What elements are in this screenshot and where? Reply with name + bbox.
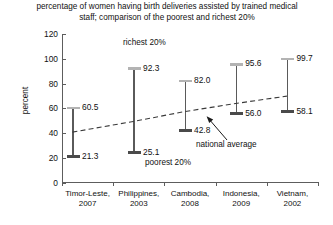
value-label-poorest: 58.1	[296, 107, 312, 115]
x-axis-label-line1: Timor-Leste,	[60, 189, 116, 199]
y-tick-label-20: 20	[26, 154, 58, 162]
value-label-richest: 99.7	[296, 54, 312, 62]
y-tick-label-40-wrap: 40	[26, 129, 58, 138]
value-label-richest: 92.3	[143, 64, 159, 72]
annotation-poorest-20: poorest 20%	[145, 158, 191, 167]
x-tick-2	[164, 182, 165, 186]
bar-line	[236, 64, 237, 113]
chart-title: percentage of women having birth deliver…	[36, 2, 298, 23]
y-tick-label-80-wrap: 80	[26, 80, 58, 89]
x-axis-label-timor-leste: Timor-Leste, 2007	[60, 189, 116, 209]
y-tick-label-80: 80	[26, 80, 58, 88]
y-tick-label-60-wrap: 60	[26, 104, 58, 113]
x-axis-label-line1: Cambodia,	[162, 189, 218, 199]
cap-poorest	[281, 110, 294, 113]
cap-poorest	[230, 112, 243, 115]
y-tick-label-100-wrap: 100	[26, 55, 58, 64]
value-label-poorest: 25.1	[143, 148, 159, 156]
y-tick-label-120: 120	[26, 30, 58, 38]
x-axis-label-philippines: Philippines, 2003	[111, 189, 167, 209]
x-axis-label-line1: Indonesia,	[213, 189, 269, 199]
x-tick-5	[318, 182, 319, 186]
y-tick-40	[62, 133, 66, 134]
cap-richest	[128, 67, 141, 70]
x-axis-label-line1: Philippines,	[111, 189, 167, 199]
bar-line	[185, 81, 186, 130]
x-axis-label-line2: 2009	[213, 199, 269, 209]
bar-line	[133, 68, 134, 151]
x-axis-label-cambodia: Cambodia, 2008	[162, 189, 218, 209]
y-tick-80	[62, 84, 66, 85]
y-tick-120	[62, 34, 66, 35]
x-axis-line	[62, 182, 319, 183]
cap-richest	[67, 107, 80, 110]
x-axis-label-line2: 2008	[162, 199, 218, 209]
cap-poorest	[67, 155, 80, 158]
value-label-richest: 60.5	[82, 103, 98, 111]
national-average-arrow-shaft	[209, 119, 228, 141]
y-tick-label-100: 100	[26, 55, 58, 63]
cap-richest	[230, 63, 243, 66]
y-tick-60	[62, 108, 66, 109]
cap-poorest	[128, 151, 141, 154]
x-axis-label-line2: 2003	[111, 199, 167, 209]
x-tick-0	[62, 182, 63, 186]
x-axis-label-line1: Vietnam,	[264, 189, 320, 199]
cap-richest	[281, 58, 294, 61]
national-average-arrow-head	[207, 116, 214, 123]
annotation-richest-20: richest 20%	[123, 38, 166, 47]
x-axis-label-vietnam: Vietnam, 2002	[264, 189, 320, 209]
x-axis-label-indonesia: Indonesia, 2009	[213, 189, 269, 209]
y-tick-label-0-wrap: 0	[26, 179, 58, 188]
y-tick-label-40: 40	[26, 129, 58, 137]
y-tick-label-0: 0	[26, 179, 58, 187]
x-tick-1	[113, 182, 114, 186]
x-axis-label-line2: 2007	[60, 199, 116, 209]
chart-container: percentage of women having birth deliver…	[0, 0, 333, 225]
value-label-poorest: 21.3	[82, 152, 98, 160]
y-tick-label-120-wrap: 120	[26, 30, 58, 39]
x-tick-4	[267, 182, 268, 186]
bar-line	[72, 108, 73, 157]
bar-line	[287, 59, 288, 111]
annotation-national-average: national average	[196, 140, 257, 149]
value-label-richest: 95.6	[245, 59, 261, 67]
cap-richest	[179, 80, 192, 83]
y-tick-label-60: 60	[26, 104, 58, 112]
value-label-poorest: 56.0	[245, 109, 261, 117]
y-tick-20	[62, 158, 66, 159]
y-tick-label-20-wrap: 20	[26, 154, 58, 163]
value-label-poorest: 42.8	[194, 126, 210, 134]
x-axis-label-line2: 2002	[264, 199, 320, 209]
y-tick-100	[62, 59, 66, 60]
value-label-richest: 82.0	[194, 76, 210, 84]
x-tick-3	[216, 182, 217, 186]
cap-poorest	[179, 129, 192, 132]
